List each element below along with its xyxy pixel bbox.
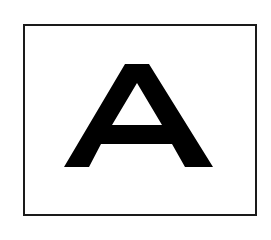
- sign-frame: A: [23, 24, 257, 216]
- letter-a-glyph: A: [25, 26, 255, 214]
